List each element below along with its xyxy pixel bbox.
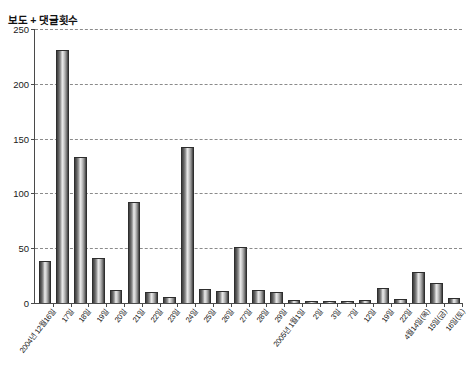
bar [448,298,461,303]
x-tick-label: 23일 [164,306,182,324]
bar [128,202,141,303]
x-tick-mark [373,303,374,307]
x-tick-mark [462,303,463,307]
y-tick-label: 100 [13,188,29,199]
x-tick-mark [124,303,125,307]
x-tick-label: 26일 [218,306,236,324]
x-tick-label: 25일 [200,306,218,324]
bar [74,157,87,303]
x-tick-label: 19일 [93,306,111,324]
x-tick-mark [426,303,427,307]
x-tick-mark [302,303,303,307]
bar [341,301,354,304]
x-tick-label: 12일 [360,306,378,324]
x-tick-mark [320,303,321,307]
bar [145,292,158,303]
x-tick-mark [391,303,392,307]
x-tick-mark [355,303,356,307]
bar [234,247,247,303]
bar [39,261,52,303]
x-tick-label: 3일 [327,306,342,321]
x-tick-mark [284,303,285,307]
bar [430,283,443,303]
x-tick-mark [142,303,143,307]
x-tick-label: 20일 [111,306,129,324]
y-tick-label: 250 [13,24,29,35]
bar [252,290,265,303]
x-tick-mark [409,303,410,307]
x-tick-label: 2일 [309,306,324,321]
x-tick-label: 19일 [378,306,396,324]
bar [163,297,176,303]
bar [92,258,105,303]
x-tick-mark [106,303,107,307]
y-tick-label: 50 [18,243,29,254]
x-tick-label: 2004년 12월16일 [16,306,57,355]
bar [288,300,301,303]
y-tick-label: 150 [13,133,29,144]
x-tick-mark [213,303,214,307]
x-tick-label: 22일 [147,306,165,324]
x-tick-label: 18일 [76,306,94,324]
x-tick-mark [231,303,232,307]
x-tick-label: 7일 [345,306,360,321]
x-tick-mark [160,303,161,307]
bar [412,272,425,303]
x-tick-label: 27일 [236,306,254,324]
x-tick-mark [266,303,267,307]
x-tick-mark [444,303,445,307]
bar [323,301,336,304]
x-tick-mark [177,303,178,307]
y-tick-label: 0 [24,298,29,309]
bar [110,290,123,303]
x-tick-mark [337,303,338,307]
x-tick-mark [53,303,54,307]
bar [359,300,372,303]
x-tick-mark [88,303,89,307]
bar [270,292,283,303]
y-tick-mark [31,303,35,304]
y-tick-label: 200 [13,78,29,89]
bar [394,299,407,303]
x-tick-label: 21일 [129,306,147,324]
x-tick-label: 24일 [182,306,200,324]
bars-group [35,29,462,303]
x-tick-label: 28일 [253,306,271,324]
x-tick-label: 17일 [58,306,76,324]
bar [181,147,194,303]
bar [216,291,229,303]
x-tick-mark [249,303,250,307]
bar [199,289,212,303]
bar [377,288,390,303]
x-tick-mark [71,303,72,307]
chart-container: ​ 보도 + 댓글횟수 050100150200250 2004년 12월16일… [0,0,467,369]
x-tick-mark [195,303,196,307]
plot-area: 050100150200250 [35,29,462,303]
bar [305,301,318,304]
page-header-strip: ​ [236,0,356,9]
bar [56,50,69,303]
